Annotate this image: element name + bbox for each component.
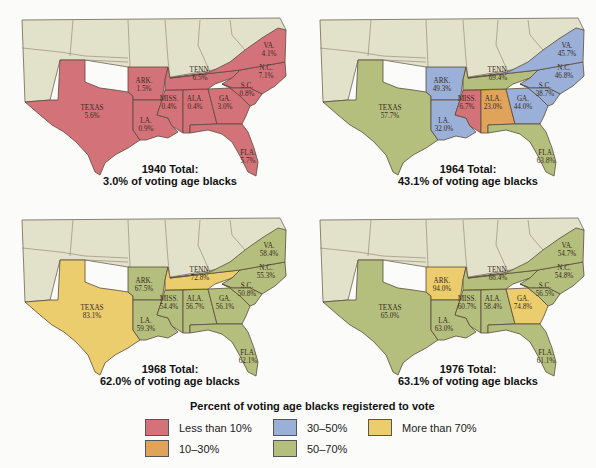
svg-text:ARK.67.5%: ARK.67.5% [135,277,154,293]
svg-text:VA.4.1%: VA.4.1% [262,42,277,58]
svg-text:ALA.58.4%: ALA.58.4% [484,295,503,311]
svg-text:ARK.49.3%: ARK.49.3% [433,77,452,93]
svg-text:FLA.5.7%: FLA.5.7% [240,149,256,165]
svg-text:FLA.62.1%: FLA.62.1% [239,349,258,365]
legend-item-30-50: 30–50% [273,419,347,436]
svg-text:N.C.7.1%: N.C.7.1% [259,64,274,80]
svg-text:ALA.0.4%: ALA.0.4% [187,95,204,111]
svg-text:TEXAS83.1%: TEXAS83.1% [80,304,103,320]
svg-text:FLA.61.1%: FLA.61.1% [537,349,556,365]
caption-total: 1964 Total: [398,163,538,175]
svg-text:TEXAS57.7%: TEXAS57.7% [378,104,401,120]
map-caption: 1940 Total: 3.0% of voting age blacks [100,163,240,187]
svg-text:N.C.46.8%: N.C.46.8% [555,64,574,80]
legend-swatch-green [273,440,297,457]
map-panel: TEXAS83.1% ARK.67.5% LA.59.3% MISS.54.4%… [0,200,298,400]
caption-percent: 3.0% of voting age blacks [100,175,240,187]
legend-swatch-blue [273,419,297,436]
svg-text:TENN.69.4%: TENN.69.4% [488,66,509,82]
caption-percent: 43.1% of voting age blacks [398,175,538,187]
svg-text:TEXAS65.0%: TEXAS65.0% [378,304,401,320]
legend-label: Less than 10% [179,422,252,434]
legend-label: 50–70% [307,443,347,455]
map-caption: 1968 Total: 62.0% of voting age blacks [100,363,240,387]
legend-label: 10–30% [179,443,219,455]
svg-text:MISS.60.7%: MISS.60.7% [458,295,477,311]
legend-item-10-30: 10–30% [145,440,219,457]
legend-title: Percent of voting age blacks registered … [190,400,435,412]
svg-text:TENN.72.8%: TENN.72.8% [190,266,211,282]
caption-total: 1968 Total: [100,363,240,375]
caption-total: 1940 Total: [100,163,240,175]
svg-text:ALA.23.0%: ALA.23.0% [484,95,503,111]
legend-item-more-than-70: More than 70% [368,419,477,436]
legend-swatch-orange [145,440,169,457]
legend-label: More than 70% [402,422,477,434]
svg-text:S.C.0.8%: S.C.0.8% [240,82,255,98]
svg-text:MISS.0.4%: MISS.0.4% [160,95,179,111]
svg-text:ALA.56.7%: ALA.56.7% [186,295,205,311]
caption-percent: 62.0% of voting age blacks [100,375,240,387]
svg-text:N.C.54.8%: N.C.54.8% [555,264,574,280]
map-panel: TEXAS5.6% ARK.1.5% LA.0.9% MISS.0.4% ALA… [0,0,298,200]
svg-text:FLA.63.8%: FLA.63.8% [537,149,556,165]
map-panel: TEXAS57.7% ARK.49.3% LA.32.0% MISS.6.7% … [298,0,596,200]
svg-text:LA.0.9%: LA.0.9% [139,117,154,133]
svg-text:MISS.54.4%: MISS.54.4% [160,295,179,311]
svg-text:MISS.6.7%: MISS.6.7% [458,95,477,111]
map-caption: 1976 Total: 63.1% of voting age blacks [398,363,538,387]
svg-text:ARK.94.0%: ARK.94.0% [433,277,452,293]
map-caption: 1964 Total: 43.1% of voting age blacks [398,163,538,187]
legend-swatch-red [145,419,169,436]
legend-label: 30–50% [307,422,347,434]
legend-swatch-yellow [368,419,392,436]
legend-item-less-than-10: Less than 10% [145,419,252,436]
svg-text:N.C.55.3%: N.C.55.3% [257,264,276,280]
map-panel: TEXAS65.0% ARK.94.0% LA.63.0% MISS.60.7%… [298,200,596,400]
svg-text:ARK.1.5%: ARK.1.5% [136,77,153,93]
caption-total: 1976 Total: [398,363,538,375]
svg-text:GA.3.0%: GA.3.0% [218,95,233,111]
legend-item-50-70: 50–70% [273,440,347,457]
caption-percent: 63.1% of voting age blacks [398,375,538,387]
svg-text:TENN.66.4%: TENN.66.4% [488,266,509,282]
